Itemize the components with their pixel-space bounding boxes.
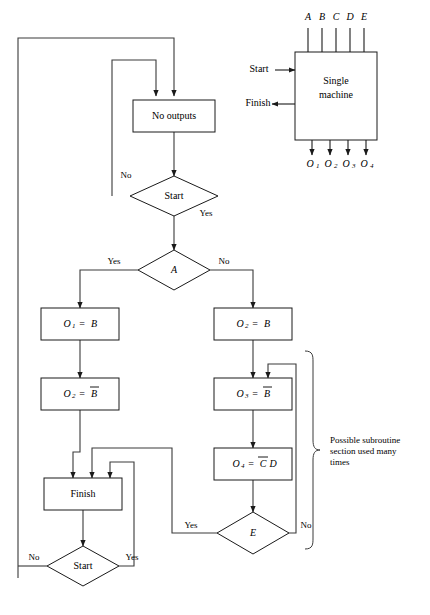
connector-a-no: [210, 270, 253, 308]
o3-out-symbol: O: [236, 388, 243, 399]
o1-subscript: 1: [72, 322, 76, 330]
o1-expr: B: [91, 318, 97, 329]
o3-equals: =: [252, 388, 258, 399]
node-decision-e[interactable]: E: [217, 512, 289, 554]
o4-equals: =: [248, 458, 254, 469]
node-o2-eq-b[interactable]: O 2 = B: [214, 308, 292, 340]
machine-output-lines: [312, 140, 366, 155]
connector-a-yes: [80, 270, 138, 308]
annotation-line-3: times: [330, 457, 350, 467]
node-o3-eq-nb[interactable]: O 3 = B: [214, 378, 292, 410]
annotation-line-2: section used many: [330, 446, 397, 456]
node-decision-a[interactable]: A: [138, 250, 210, 290]
edge-label-start-top-no: No: [121, 170, 132, 180]
machine-output-labels: O 1 O 2 O 3 O 4: [306, 158, 374, 170]
o2-eq-b-expression: O 2 = B: [236, 318, 270, 330]
node-o2-eq-nb[interactable]: O 2 = B: [41, 378, 119, 410]
machine-finish-label: Finish: [245, 97, 270, 108]
annotation-line-1: Possible subroutine: [330, 435, 400, 445]
o2n-subscript: 2: [72, 392, 76, 400]
o2n-out-symbol: O: [63, 388, 70, 399]
node-o4-eq-ncd[interactable]: O 4 = C D: [214, 448, 292, 480]
o1-equals: =: [79, 318, 85, 329]
edge-label-start-top-yes: Yes: [199, 208, 213, 218]
input-label-e: E: [360, 11, 367, 22]
o2b-out-symbol: O: [236, 318, 243, 329]
o3-eq-nb-expression: O 3 = B: [236, 387, 272, 400]
o4-expr-b: D: [268, 458, 277, 469]
start-bottom-label: Start: [74, 560, 93, 571]
subroutine-brace-group: Possible subroutine section used many ti…: [305, 351, 400, 549]
o4-out-symbol: O: [232, 458, 239, 469]
input-label-d: D: [345, 11, 354, 22]
start-top-label: Start: [165, 190, 184, 201]
edge-label-start-bottom-yes: Yes: [125, 552, 139, 562]
output-sub-2: 2: [334, 162, 338, 170]
o2b-subscript: 2: [245, 322, 249, 330]
flowchart-figure: Single machine A B C D E: [0, 0, 430, 615]
input-label-b: B: [319, 11, 325, 22]
output-label-o3: O: [342, 158, 349, 169]
o2n-equals: =: [79, 388, 85, 399]
o4-subscript: 4: [241, 462, 245, 470]
o2n-expr: B: [91, 388, 97, 399]
o2b-expr: B: [264, 318, 270, 329]
output-label-o4: O: [360, 158, 367, 169]
o3-subscript: 3: [244, 392, 249, 400]
machine-input-lines: [308, 28, 364, 52]
output-label-o2: O: [324, 158, 331, 169]
o3-expr: B: [264, 388, 270, 399]
input-label-c: C: [333, 11, 340, 22]
edge-label-start-bottom-no: No: [29, 552, 40, 562]
o2-eq-nb-expression: O 2 = B: [63, 387, 99, 400]
single-machine-label-line2: machine: [319, 89, 353, 100]
output-sub-1: 1: [316, 162, 320, 170]
o4-expr-a: C: [260, 458, 267, 469]
finish-label: Finish: [70, 488, 95, 499]
block-diagram-group: Single machine A B C D E: [245, 11, 377, 170]
node-start-bottom[interactable]: Start: [47, 546, 119, 586]
o1-eq-b-expression: O 1 = B: [63, 318, 97, 330]
edge-label-e-yes: Yes: [184, 520, 198, 530]
input-label-a: A: [304, 11, 312, 22]
decision-e-label: E: [249, 527, 256, 538]
o2b-equals: =: [252, 318, 258, 329]
output-sub-4: 4: [370, 162, 374, 170]
machine-start-label: Start: [250, 63, 269, 74]
output-sub-3: 3: [351, 162, 356, 170]
decision-a-label: A: [170, 264, 178, 275]
connector-o2-to-finish: [73, 410, 80, 478]
o1-out-symbol: O: [63, 318, 70, 329]
single-machine-label-line1: Single: [323, 75, 349, 86]
figure-canvas: Single machine A B C D E: [0, 0, 430, 615]
node-finish[interactable]: Finish: [44, 478, 122, 510]
output-label-o1: O: [306, 158, 313, 169]
node-o1-eq-b[interactable]: O 1 = B: [41, 308, 119, 340]
no-outputs-label: No outputs: [152, 110, 196, 121]
edge-label-a-yes: Yes: [107, 256, 121, 266]
edge-label-a-no: No: [219, 256, 230, 266]
node-no-outputs[interactable]: No outputs: [133, 100, 215, 132]
edge-label-e-no: No: [301, 520, 312, 530]
